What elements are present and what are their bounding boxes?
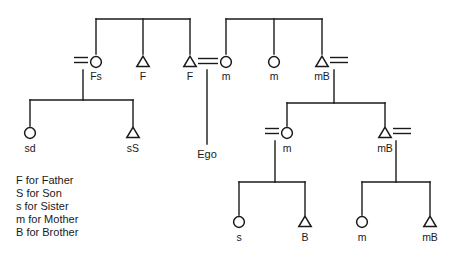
female-circle-icon [234, 217, 245, 228]
ego-label: Ego [197, 148, 217, 160]
marriage-lines-group [74, 58, 411, 134]
female-circle-icon [25, 128, 36, 139]
kin-node-label: F [140, 70, 146, 82]
female-circle-icon [221, 57, 232, 68]
male-triangle-icon [127, 127, 139, 137]
bar-mb2-children [362, 141, 430, 215]
kin-node-n-b: B [299, 216, 311, 243]
legend-line-4: B for Brother [16, 226, 79, 238]
sibling-bars-group [30, 19, 430, 215]
marriage-f2m [198, 59, 218, 64]
kin-nodes-group: FsFFmmmBsdsSmmBsBmmB [24, 56, 437, 243]
kin-node-n-f1: F [137, 56, 149, 82]
kin-node-n-ss: sS [127, 127, 139, 154]
female-circle-icon [282, 128, 293, 139]
kin-node-label: sS [127, 142, 139, 154]
kin-node-label: m [222, 70, 231, 82]
female-circle-icon [269, 57, 280, 68]
kin-node-n-mb3: mB [422, 216, 438, 243]
ego-group: Ego [197, 70, 217, 160]
marriage-mb2 [393, 129, 411, 134]
kin-node-label: s [236, 231, 241, 243]
legend-line-1: S for Son [16, 187, 62, 199]
kin-node-label: mB [314, 70, 330, 82]
kin-node-n-fs: Fs [90, 57, 102, 82]
kin-node-label: sd [24, 142, 35, 154]
marriage-mb1 [330, 58, 348, 63]
kinship-diagram-canvas: Ego FsFFmmmBsdsSmmBsBmmB F for FatherS f… [0, 0, 458, 261]
male-triangle-icon [299, 216, 311, 226]
kin-node-label: F [187, 70, 193, 82]
female-circle-icon [91, 57, 102, 68]
kin-node-label: mB [422, 231, 438, 243]
kin-node-n-m2: m [269, 57, 280, 82]
male-triangle-icon [316, 56, 328, 66]
kin-node-n-sd: sd [24, 128, 35, 154]
female-circle-icon [357, 217, 368, 228]
male-triangle-icon [424, 216, 436, 226]
legend-line-2: s for Sister [16, 200, 69, 212]
kin-node-n-mb1: mB [314, 56, 330, 82]
kin-node-n-f2: F [184, 56, 196, 82]
kin-node-label: m [270, 70, 279, 82]
kin-node-label: Fs [90, 70, 102, 82]
male-triangle-icon [184, 56, 196, 66]
kin-node-n-mb2: mB [377, 127, 393, 154]
marriage-fs [74, 58, 88, 63]
kin-node-label: m [283, 142, 292, 154]
male-triangle-icon [379, 127, 391, 137]
legend-group: F for FatherS for Sons for Sisterm for M… [16, 174, 79, 238]
kin-node-n-m1: m [221, 57, 232, 82]
kin-node-label: mB [377, 142, 393, 154]
bar-maternal [226, 19, 322, 54]
male-triangle-icon [137, 56, 149, 66]
kinship-diagram: Ego FsFFmmmBsdsSmmBsBmmB F for FatherS f… [0, 0, 458, 261]
marriage-m3 [265, 129, 279, 134]
kin-node-n-s: s [234, 217, 245, 243]
legend-line-3: m for Mother [16, 213, 79, 225]
bar-m3-children [239, 141, 305, 215]
kin-node-label: B [301, 231, 308, 243]
bar-mb1-children [287, 70, 385, 126]
kin-node-n-m4: m [357, 217, 368, 243]
legend-line-0: F for Father [16, 174, 74, 186]
kin-node-n-m3: m [282, 128, 293, 154]
bar-fs-children [30, 70, 133, 126]
kin-node-label: m [358, 231, 367, 243]
bar-paternal [96, 19, 190, 54]
